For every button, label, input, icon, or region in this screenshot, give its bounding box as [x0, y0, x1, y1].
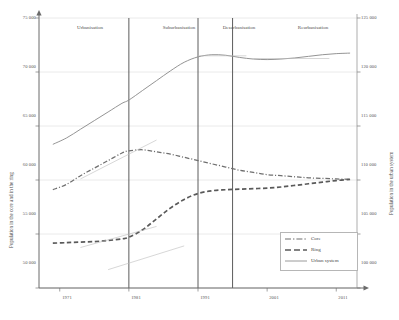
legend-item-ring: Ring [281, 244, 357, 255]
phase-label-reurbanisation: Reurbanisation [282, 25, 344, 30]
legend-swatch-ring [285, 246, 307, 254]
y-left-tick-3: 65 000 [10, 114, 36, 119]
chart-legend: Core Ring Urban system [280, 232, 358, 271]
y-axis-arrowhead [36, 10, 41, 16]
y-right-tick-3: 115 000 [361, 114, 395, 119]
y-right-tick-5: 125 000 [361, 16, 395, 21]
phase-label-urbanisation: Urbanisation [60, 25, 120, 30]
legend-item-urban-system: Urban system [281, 255, 357, 266]
legend-swatch-urban-system [285, 257, 307, 265]
y-right-tick-4: 120 000 [361, 65, 395, 70]
x-tick-1991: 1991 [190, 296, 220, 301]
chart-figure: 75 000 70 000 65 000 60 000 55 000 50 00… [0, 0, 399, 320]
legend-label-ring: Ring [311, 247, 321, 252]
legend-item-core: Core [281, 233, 357, 244]
chart-canvas [0, 0, 399, 320]
y-axis-right-title: Population in the urban system [389, 152, 394, 215]
y-left-tick-2: 60 000 [10, 163, 36, 168]
series-line-urban-system [53, 53, 350, 144]
x-tick-1971: 1971 [52, 296, 82, 301]
x-axis-arrowhead [364, 285, 370, 290]
legend-label-core: Core [311, 236, 321, 241]
x-tick-2011: 2011 [328, 296, 358, 301]
x-tick-2001: 2001 [259, 296, 289, 301]
phase-label-suburbanisation: Suburbanisation [148, 25, 210, 30]
trend-segment-3 [80, 226, 156, 247]
legend-swatch-core [285, 235, 307, 243]
phase-label-desurbanisation: Desurbanisation [208, 25, 270, 30]
y-axis-left-title: Population in the core and in the ring [9, 172, 14, 248]
legend-label-urban-system: Urban system [311, 258, 339, 263]
y-right-tick-0: 100 000 [361, 261, 395, 266]
y-left-tick-4: 70 000 [10, 65, 36, 70]
y-left-tick-0: 50 000 [10, 261, 36, 266]
y-left-tick-5: 75 000 [10, 16, 36, 21]
trend-segment-4 [108, 246, 184, 270]
trend-segment-2 [80, 140, 156, 179]
x-tick-1981: 1981 [121, 296, 151, 301]
